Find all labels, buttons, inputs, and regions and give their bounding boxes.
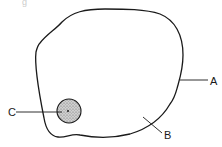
caption-fragment: g [22, 0, 27, 7]
label-c: C [8, 106, 16, 118]
cell-membrane-outline [36, 9, 183, 137]
leader-line-b [143, 117, 162, 133]
cell-diagram: g A B C [0, 0, 222, 147]
label-a: A [210, 75, 218, 87]
label-b: B [164, 129, 171, 141]
nucleolus-dot [67, 110, 69, 112]
